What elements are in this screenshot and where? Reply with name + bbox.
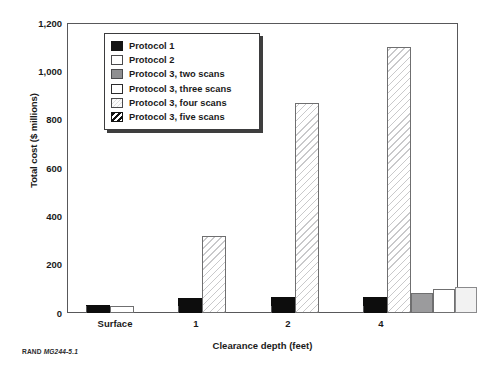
figure-chart: Total cost ($ millions) 1,200 1,000 800 … bbox=[0, 0, 477, 371]
legend-item-protocol-1: Protocol 1 bbox=[111, 39, 251, 53]
x-separator-2ft bbox=[271, 306, 272, 313]
legend-item-protocol-2: Protocol 2 bbox=[111, 53, 251, 67]
legend-label-protocol-3-four-scans: Protocol 3, four scans bbox=[129, 98, 227, 108]
legend-item-protocol-3-two-scans: Protocol 3, two scans bbox=[111, 67, 251, 81]
y-tick-label-400: 400 bbox=[16, 211, 62, 222]
legend-swatch-pale-icon bbox=[111, 98, 123, 108]
legend-swatch-gray-icon bbox=[111, 69, 123, 79]
x-tick-label-4ft: 4 bbox=[361, 318, 401, 329]
legend-label-protocol-3-three-scans: Protocol 3, three scans bbox=[129, 84, 231, 94]
legend-label-protocol-2: Protocol 2 bbox=[129, 55, 174, 65]
y-tick-label-1000: 1,000 bbox=[16, 66, 62, 77]
figure-source-note: RAND MG244-5.1 bbox=[22, 348, 78, 355]
legend-swatch-white-outline-icon bbox=[111, 84, 123, 94]
y-tick-label-600: 600 bbox=[16, 163, 62, 174]
source-prefix: RAND bbox=[22, 348, 42, 355]
legend-label-protocol-1: Protocol 1 bbox=[129, 41, 174, 51]
bar-4ft-protocol-3-four-scans bbox=[455, 287, 477, 313]
x-separator-1ft bbox=[178, 306, 179, 313]
legend-swatch-hatch-icon bbox=[111, 112, 123, 122]
legend-item-protocol-3-three-scans: Protocol 3, three scans bbox=[111, 82, 251, 96]
legend-item-protocol-3-four-scans: Protocol 3, four scans bbox=[111, 96, 251, 110]
y-tick-label-800: 800 bbox=[16, 114, 62, 125]
y-tick-label-1200: 1,200 bbox=[16, 18, 62, 29]
legend-label-protocol-3-five-scans: Protocol 3, five scans bbox=[129, 112, 225, 122]
legend-item-protocol-3-five-scans: Protocol 3, five scans bbox=[111, 110, 251, 124]
chart-legend: Protocol 1 Protocol 2 Protocol 3, two sc… bbox=[104, 33, 260, 130]
legend-swatch-solid-black-icon bbox=[111, 41, 123, 51]
source-id: MG244-5.1 bbox=[44, 348, 78, 355]
x-separator-surface bbox=[86, 306, 87, 313]
x-separator-4ft bbox=[363, 306, 364, 313]
x-tick-label-surface: Surface bbox=[80, 318, 150, 329]
y-tick-label-200: 200 bbox=[16, 259, 62, 270]
legend-swatch-white-icon bbox=[111, 55, 123, 65]
x-tick-label-2ft: 2 bbox=[268, 318, 308, 329]
x-axis-title: Clearance depth (feet) bbox=[67, 340, 458, 351]
y-tick-label-0: 0 bbox=[16, 308, 62, 319]
x-tick-label-1ft: 1 bbox=[176, 318, 216, 329]
legend-label-protocol-3-two-scans: Protocol 3, two scans bbox=[129, 69, 225, 79]
